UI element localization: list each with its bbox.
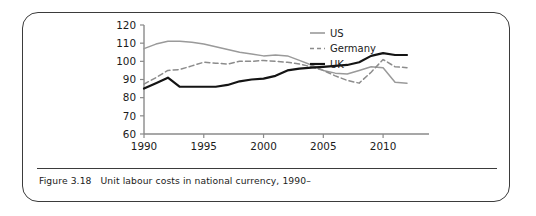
y-axis-tick-label: 60	[123, 128, 136, 140]
y-axis-tick-label: 90	[123, 73, 136, 85]
series-line-germany	[144, 60, 407, 85]
figure-card: 60708090100110120 19901995200020052010 U…	[22, 12, 510, 202]
figure-caption: Figure 3.18Unit labour costs in national…	[39, 175, 499, 186]
legend-label-uk: UK	[330, 59, 344, 70]
x-axis-tick-label: 1995	[191, 140, 217, 152]
y-axis-tick-label: 80	[123, 91, 136, 103]
y-axis: 60708090100110120	[116, 19, 144, 140]
x-axis: 19901995200020052010	[131, 134, 429, 152]
x-axis-tick-label: 2005	[310, 140, 336, 152]
chart-plot-area: 60708090100110120 19901995200020052010 U…	[23, 13, 511, 165]
y-axis-tick-label: 120	[116, 19, 136, 31]
series-line-uk	[144, 53, 407, 88]
x-axis-tick-label: 1990	[131, 140, 157, 152]
x-axis-tick-label: 2010	[370, 140, 396, 152]
legend-label-us: US	[330, 28, 344, 39]
figure-caption-label: Figure 3.18	[39, 175, 92, 186]
y-axis-tick-label: 70	[123, 110, 136, 122]
unit-labour-costs-line-chart: 60708090100110120 19901995200020052010 U…	[23, 13, 511, 165]
figure-caption-text: Unit labour costs in national currency, …	[101, 175, 311, 186]
y-axis-tick-label: 110	[116, 37, 136, 49]
y-axis-tick-label: 100	[116, 55, 136, 67]
legend-label-germany: Germany	[330, 43, 376, 54]
x-axis-tick-label: 2000	[250, 140, 276, 152]
caption-divider	[37, 168, 497, 169]
chart-legend: USGermanyUK	[310, 28, 376, 70]
